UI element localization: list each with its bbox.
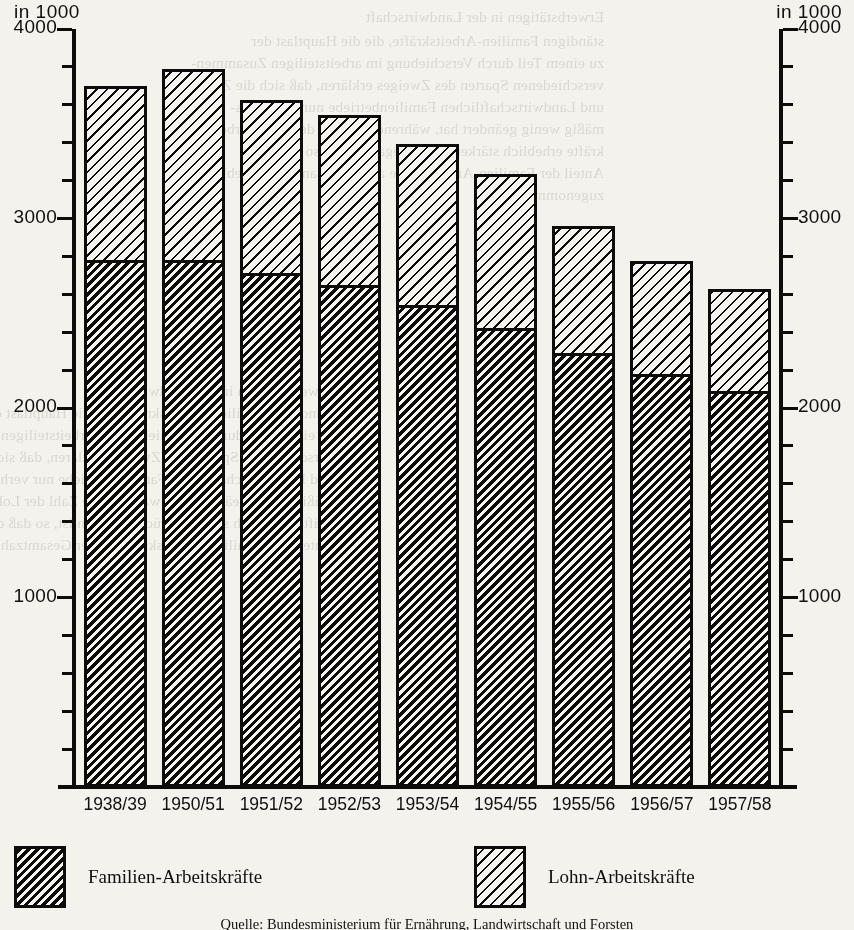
legend-label-familien: Familien-Arbeitskräfte: [88, 866, 262, 888]
bar-segment-familien: [630, 374, 693, 787]
x-label-1957-58: 1957/58: [680, 794, 800, 815]
bar-segment-familien: [474, 328, 537, 787]
stacked-bar-chart: in 1000 in 1000 400040003000300020002000…: [0, 0, 854, 930]
bar-1951-52: [240, 100, 303, 787]
bar-1952-53: [318, 115, 381, 787]
bar-segment-familien: [318, 285, 381, 787]
bar-segment-familien: [396, 305, 459, 787]
legend-label-lohn: Lohn-Arbeitskräfte: [548, 866, 695, 888]
legend-swatch-familien-icon: [14, 846, 66, 908]
bar-1954-55: [474, 174, 537, 787]
bar-segment-lohn: [84, 86, 147, 263]
bar-segment-familien: [708, 391, 771, 787]
bar-1950-51: [162, 69, 225, 787]
bar-segment-lohn: [162, 69, 225, 263]
bar-segment-familien: [240, 273, 303, 787]
bar-1953-54: [396, 144, 459, 787]
bar-1955-56: [552, 226, 615, 787]
bar-1938-39: [84, 86, 147, 787]
legend-item-lohn: Lohn-Arbeitskräfte: [474, 846, 695, 908]
bar-1956-57: [630, 261, 693, 787]
bar-series-group: [0, 0, 854, 930]
bar-segment-familien: [162, 260, 225, 787]
bar-segment-familien: [552, 353, 615, 787]
bar-segment-lohn: [630, 261, 693, 377]
bar-segment-lohn: [708, 289, 771, 394]
bar-segment-lohn: [474, 174, 537, 331]
legend-item-familien: Familien-Arbeitskräfte: [14, 846, 262, 908]
legend-swatch-lohn-icon: [474, 846, 526, 908]
bar-segment-lohn: [396, 144, 459, 308]
bar-segment-familien: [84, 260, 147, 787]
bar-segment-lohn: [552, 226, 615, 356]
bar-segment-lohn: [240, 100, 303, 276]
source-caption: Quelle: Bundesministerium für Ernährung,…: [0, 916, 854, 930]
bar-1957-58: [708, 289, 771, 787]
chart-legend: Familien-Arbeitskräfte Lohn-Arbeitskräft…: [0, 846, 854, 908]
bar-segment-lohn: [318, 115, 381, 288]
